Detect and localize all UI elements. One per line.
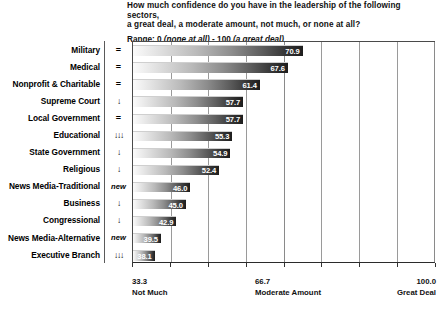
trend-indicator-down3-icon: ↓↓↓ [114,250,123,260]
bar: 42.9 [133,216,176,227]
bar-row: 70.9 [133,42,434,59]
x-axis-label-great-deal: 100.0 Great Deal [397,277,436,297]
x-axis-tick [246,263,247,267]
trend-indicator-new-icon: new [111,233,126,242]
trend-indicator-down-icon: ↓ [117,198,120,208]
bar: 70.9 [133,45,303,56]
trend-indicator-row: ↓ [105,212,132,229]
category-label: State Government [29,147,103,157]
x-axis-tick [435,263,436,267]
bar: 57.7 [133,114,243,125]
bar: 57.7 [133,96,243,107]
bar: 45.0 [133,199,186,210]
x-axis-label-not-much: 33.3 Not Much [132,277,168,297]
x-axis-tick [397,263,398,267]
bar-value-label: 46.0 [171,183,189,192]
bar-series: 70.967.661.457.757.755.354.952.446.045.0… [133,42,434,262]
trend-indicator-row: ↓ [105,161,132,178]
x-axis-tick [132,263,133,267]
bar: 52.4 [133,165,219,176]
trend-indicator-column: ===↓=↓↓↓↓↓new↓↓new↓↓↓ [104,41,132,263]
x-axis-label-moderate-amount: 66.7 Moderate Amount [255,277,321,297]
category-row: Medical [0,58,103,75]
category-row: Executive Branch [0,246,103,263]
trend-indicator-equal-icon: = [116,113,121,123]
trend-indicator-down-icon: ↓ [117,164,120,174]
trend-indicator-row: new [105,229,132,246]
category-row: Nonprofit & Charitable [0,75,103,92]
x-axis-right-value: 100.0 [397,277,436,286]
category-label: Medical [70,62,103,72]
chart-question-line-2: a great deal, a moderate amount, not muc… [127,20,435,30]
x-axis-mid-name: Moderate Amount [255,288,321,297]
category-label: Local Government [28,113,103,123]
bar-row: 39.5 [133,230,434,247]
category-label: Religious [63,164,103,174]
category-label: Educational [54,130,103,140]
trend-indicator-row: = [105,41,132,58]
category-label: News Media-Traditional [9,181,103,191]
bar-value-label: 45.0 [166,200,184,209]
category-row: Supreme Court [0,92,103,109]
trend-indicator-equal-icon: = [116,79,121,89]
bar-row: 55.3 [133,127,434,144]
gridline [434,42,435,262]
x-axis-right-name: Great Deal [397,288,436,297]
bar-row: 57.7 [133,93,434,110]
bar: 67.6 [133,62,288,73]
bar-row: 52.4 [133,161,434,178]
x-axis-left-value: 33.3 [132,277,168,286]
bar: 38.1 [133,250,155,261]
bar-row: 67.6 [133,59,434,76]
trend-indicator-row: ↓ [105,92,132,109]
trend-indicator-new-icon: new [111,182,126,191]
x-axis-mid-value: 66.7 [255,277,321,286]
bar-value-label: 67.6 [268,64,286,73]
category-row: Congressional [0,212,103,229]
bar-value-label: 61.4 [240,81,258,90]
confidence-in-leadership-bar-chart: How much confidence do you have in the l… [0,0,438,316]
bar-value-label: 52.4 [200,166,218,175]
bar-value-label: 55.3 [213,132,231,141]
trend-indicator-equal-icon: = [116,62,121,72]
category-label-column: MilitaryMedicalNonprofit & CharitableSup… [0,41,103,263]
x-axis-tick [321,263,322,267]
x-axis-tick [359,263,360,267]
category-row: Educational [0,126,103,143]
chart-question-line-1: How much confidence do you have in the l… [127,1,435,20]
category-row: News Media-Traditional [0,178,103,195]
trend-indicator-row: = [105,58,132,75]
trend-indicator-row: = [105,75,132,92]
x-axis-labels: 33.3 Not Much 66.7 Moderate Amount 100.0… [110,277,438,307]
bar: 39.5 [133,233,161,244]
trend-indicator-row: ↓↓↓ [105,246,132,263]
bar-row: 45.0 [133,196,434,213]
trend-indicator-equal-icon: = [116,45,121,55]
category-label: Military [71,45,103,55]
x-axis-tick [170,263,171,267]
bar: 46.0 [133,182,190,193]
bar-value-label: 57.7 [224,115,242,124]
trend-indicator-down-icon: ↓ [117,215,120,225]
bar: 61.4 [133,79,260,90]
category-label: Executive Branch [31,250,103,260]
bar-row: 54.9 [133,144,434,161]
bar: 55.3 [133,131,232,142]
x-axis-tick [208,263,209,267]
bar-row: 38.1 [133,247,434,264]
category-row: Business [0,195,103,212]
trend-indicator-row: = [105,109,132,126]
bar-row: 46.0 [133,179,434,196]
x-axis-tick [284,263,285,267]
category-row: News Media-Alternative [0,229,103,246]
category-row: Military [0,41,103,58]
trend-indicator-down3-icon: ↓↓↓ [114,130,123,140]
category-label: News Media-Alternative [8,233,103,243]
bar-value-label: 57.7 [224,98,242,107]
bar: 54.9 [133,148,230,159]
trend-indicator-row: ↓ [105,144,132,161]
bar-row: 42.9 [133,213,434,230]
bar-row: 57.7 [133,110,434,127]
bar-row: 61.4 [133,76,434,93]
trend-indicator-row: ↓↓↓ [105,126,132,143]
